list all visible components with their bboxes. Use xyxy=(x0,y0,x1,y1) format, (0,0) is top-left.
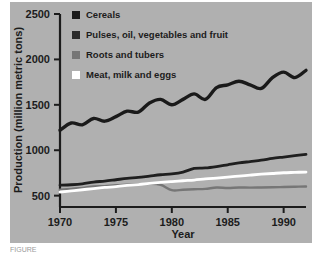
x-axis-tick-labels: 19701975198019851990 xyxy=(48,216,296,228)
legend-label-0: Cereals xyxy=(86,9,120,20)
x-tick-label: 1985 xyxy=(215,216,239,228)
x-tick-label: 1970 xyxy=(48,216,72,228)
production-line-chart: 5001000150020002500 19701975198019851990… xyxy=(0,0,326,255)
x-axis-title: Year xyxy=(171,228,195,240)
x-tick-label: 1980 xyxy=(160,216,184,228)
legend-swatch-0 xyxy=(72,11,80,19)
legend-label-2: Roots and tubers xyxy=(86,49,164,60)
figure-container: 5001000150020002500 19701975198019851990… xyxy=(0,0,326,255)
y-tick-label: 1000 xyxy=(26,144,50,156)
legend-label-3: Meat, milk and eggs xyxy=(86,69,176,80)
y-tick-label: 1500 xyxy=(26,99,50,111)
legend-swatch-1 xyxy=(72,31,80,39)
figure-caption: FIGURE xyxy=(10,246,312,254)
legend-swatch-3 xyxy=(72,71,80,79)
y-axis-title: Production (million metric tons) xyxy=(12,27,24,194)
chart-legend: CerealsPulses, oil, vegetables and fruit… xyxy=(72,9,229,80)
x-tick-label: 1975 xyxy=(104,216,128,228)
chart-series-group xyxy=(60,70,306,192)
y-tick-label: 2500 xyxy=(26,8,50,20)
legend-label-1: Pulses, oil, vegetables and fruit xyxy=(86,29,229,40)
y-tick-label: 500 xyxy=(32,190,50,202)
y-axis-tick-labels: 5001000150020002500 xyxy=(26,8,50,202)
x-tick-label: 1990 xyxy=(271,216,295,228)
chart-axes xyxy=(60,14,306,207)
legend-swatch-2 xyxy=(72,51,80,59)
y-tick-label: 2000 xyxy=(26,53,50,65)
